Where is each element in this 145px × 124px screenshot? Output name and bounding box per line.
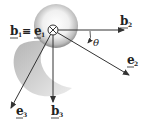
label-b3: b 3 xyxy=(51,104,63,118)
equiv-symbol: ≡ xyxy=(22,25,31,38)
label-e2: e 2 xyxy=(127,53,138,67)
svg-text:2: 2 xyxy=(128,21,132,28)
svg-text:1: 1 xyxy=(41,31,45,38)
label-e3: e 3 xyxy=(16,104,27,118)
svg-text:3: 3 xyxy=(23,111,27,118)
theta-label: θ xyxy=(93,37,99,48)
vector-diagram: b 1 ≡ e 1 b 2 e 2 b 3 e 3 θ xyxy=(0,0,145,124)
svg-text:2: 2 xyxy=(134,60,138,67)
into-page-icon xyxy=(48,25,58,35)
svg-text:3: 3 xyxy=(59,111,63,118)
label-b1: b 1 xyxy=(10,24,22,38)
theta-arc xyxy=(88,31,91,43)
label-b2: b 2 xyxy=(120,14,132,28)
